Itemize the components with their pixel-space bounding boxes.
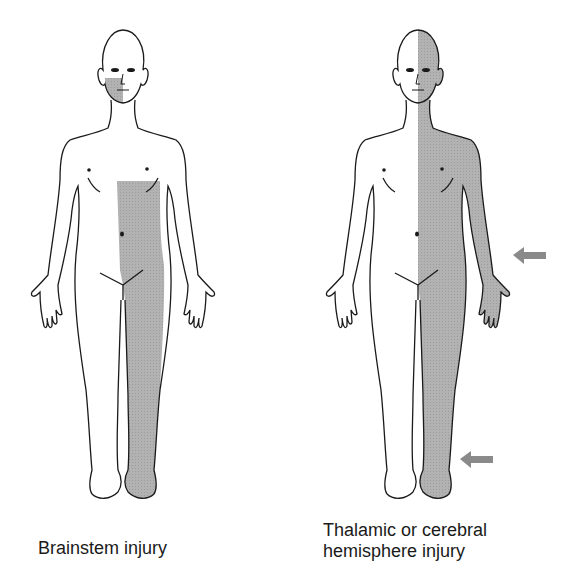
right-eye bbox=[127, 68, 135, 72]
nipple-right bbox=[145, 167, 149, 171]
shaded-hemibody-region bbox=[418, 30, 510, 498]
navel bbox=[415, 232, 419, 237]
nipple-left bbox=[382, 168, 386, 172]
caption-line-2: hemisphere injury bbox=[323, 541, 487, 562]
right-eye bbox=[422, 68, 430, 72]
diagram-canvas bbox=[0, 0, 581, 583]
figure-brainstem bbox=[31, 30, 214, 498]
nipple-right bbox=[440, 167, 444, 171]
navel bbox=[120, 232, 124, 237]
caption-text: Brainstem injury bbox=[38, 538, 167, 558]
left-eye bbox=[406, 68, 414, 72]
caption-thalamic: Thalamic or cerebral hemisphere injury bbox=[323, 520, 487, 562]
left-eye bbox=[111, 68, 119, 72]
shaded-body-region bbox=[117, 181, 164, 498]
arrow-leg-icon bbox=[460, 451, 493, 468]
nipple-left bbox=[87, 168, 91, 172]
caption-line-1: Thalamic or cerebral bbox=[323, 520, 487, 541]
figure-thalamic bbox=[326, 30, 509, 498]
caption-brainstem: Brainstem injury bbox=[38, 538, 167, 559]
arrow-arm-icon bbox=[513, 247, 546, 264]
